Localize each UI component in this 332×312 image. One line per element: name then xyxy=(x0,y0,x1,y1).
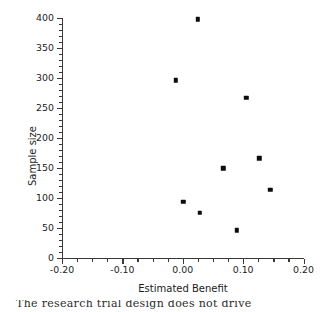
x-axis-title: Estimated Benefit xyxy=(62,283,304,294)
x-axis-minor-tick xyxy=(228,259,229,262)
y-axis-tick-label: 150 xyxy=(36,163,54,172)
y-axis-tick xyxy=(57,18,62,19)
y-axis-minor-tick xyxy=(59,24,62,25)
y-axis-minor-tick xyxy=(59,162,62,163)
y-axis-tick xyxy=(57,48,62,49)
x-axis-tick-label: -0.10 xyxy=(110,265,134,274)
x-axis-minor-tick xyxy=(153,259,154,262)
y-axis-tick-label: 300 xyxy=(36,73,54,82)
x-axis-tick-label: 0.20 xyxy=(293,265,314,274)
data-point xyxy=(173,78,177,82)
y-axis-minor-tick xyxy=(59,180,62,181)
caption-text: The research trial design does not drive xyxy=(16,300,252,310)
data-point xyxy=(181,200,185,204)
x-axis-tick-label: -0.20 xyxy=(50,265,74,274)
x-axis-tick xyxy=(243,259,244,264)
y-axis-minor-tick xyxy=(59,150,62,151)
y-axis-minor-tick xyxy=(59,36,62,37)
x-axis-tick xyxy=(183,259,184,264)
y-axis-tick-label: 0 xyxy=(48,253,54,262)
data-point xyxy=(235,228,239,232)
x-axis-tick xyxy=(304,259,305,264)
x-axis-tick-label: 0.00 xyxy=(172,265,193,274)
y-axis-minor-tick xyxy=(59,72,62,73)
x-axis-minor-tick xyxy=(92,259,93,262)
x-axis-minor-tick xyxy=(198,259,199,262)
caption-strip: The research trial design does not drive xyxy=(0,300,332,312)
y-axis-line xyxy=(62,18,63,259)
y-axis-minor-tick xyxy=(59,54,62,55)
scatter-plot-figure: 050100150200250300350400 -0.20-0.100.000… xyxy=(0,0,332,312)
x-axis-minor-tick xyxy=(107,259,108,262)
y-axis-minor-tick xyxy=(59,246,62,247)
y-axis-minor-tick xyxy=(59,114,62,115)
y-axis-minor-tick xyxy=(59,30,62,31)
y-axis-minor-tick xyxy=(59,144,62,145)
data-point xyxy=(244,95,248,99)
x-axis-tick-label: 0.10 xyxy=(233,265,254,274)
x-axis-minor-tick xyxy=(258,259,259,262)
y-axis-minor-tick xyxy=(59,174,62,175)
data-point xyxy=(197,211,201,215)
y-axis-minor-tick xyxy=(59,126,62,127)
x-axis-tick xyxy=(122,259,123,264)
y-axis-tick-label: 100 xyxy=(36,193,54,202)
y-axis-minor-tick xyxy=(59,234,62,235)
y-axis-minor-tick xyxy=(59,240,62,241)
y-axis-minor-tick xyxy=(59,216,62,217)
y-axis-tick xyxy=(57,108,62,109)
y-axis-minor-tick xyxy=(59,66,62,67)
x-axis-minor-tick xyxy=(137,259,138,262)
y-axis-minor-tick xyxy=(59,156,62,157)
y-axis-minor-tick xyxy=(59,252,62,253)
y-axis-tick-label: 400 xyxy=(36,13,54,22)
y-axis-tick-label: 350 xyxy=(36,43,54,52)
y-axis-tick-label: 50 xyxy=(42,223,54,232)
x-axis-tick xyxy=(62,259,63,264)
x-axis-minor-tick xyxy=(273,259,274,262)
x-axis-minor-tick xyxy=(288,259,289,262)
y-axis-minor-tick xyxy=(59,120,62,121)
x-axis-minor-tick xyxy=(77,259,78,262)
y-axis-tick-label: 250 xyxy=(36,103,54,112)
y-axis-tick-label: 200 xyxy=(36,133,54,142)
x-axis-minor-tick xyxy=(213,259,214,262)
y-axis-minor-tick xyxy=(59,90,62,91)
y-axis-minor-tick xyxy=(59,210,62,211)
y-axis-minor-tick xyxy=(59,60,62,61)
y-axis-tick xyxy=(57,78,62,79)
y-axis-minor-tick xyxy=(59,84,62,85)
y-axis-tick xyxy=(57,198,62,199)
y-axis-minor-tick xyxy=(59,192,62,193)
y-axis-tick xyxy=(57,168,62,169)
y-axis-minor-tick xyxy=(59,204,62,205)
y-axis-minor-tick xyxy=(59,132,62,133)
data-point xyxy=(257,156,261,160)
data-point xyxy=(221,166,225,170)
y-axis-minor-tick xyxy=(59,102,62,103)
data-point xyxy=(196,17,200,21)
y-axis-title: Sample size xyxy=(27,126,38,186)
data-point xyxy=(268,188,272,192)
y-axis-minor-tick xyxy=(59,222,62,223)
x-axis-minor-tick xyxy=(168,259,169,262)
y-axis-tick xyxy=(57,228,62,229)
y-axis-minor-tick xyxy=(59,42,62,43)
y-axis-minor-tick xyxy=(59,96,62,97)
y-axis-tick xyxy=(57,138,62,139)
y-axis-minor-tick xyxy=(59,186,62,187)
